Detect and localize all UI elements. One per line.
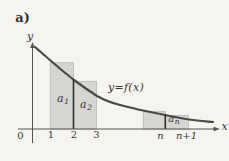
figure-part-label: a)	[15, 11, 30, 24]
y-axis-label: y	[27, 31, 33, 42]
a2-subscript: 2	[87, 103, 92, 112]
x-tick-3: 3	[93, 130, 99, 140]
x-axis-label: x	[221, 121, 227, 132]
x-tick-n-plus-1: n+1	[176, 131, 197, 141]
x-axis-arrow-icon	[214, 127, 221, 132]
an-subscript: n	[175, 117, 180, 126]
area-label-a1: a1	[57, 93, 69, 106]
x-tick-n: n	[157, 131, 163, 141]
curve-equation-label: y=f(x)	[108, 81, 144, 92]
a1-subscript: 1	[64, 97, 69, 106]
x-tick-2: 2	[71, 130, 77, 140]
area-label-an: an	[168, 114, 179, 126]
x-tick-1: 1	[48, 130, 54, 140]
a2-base: a	[80, 98, 87, 111]
a1-base: a	[57, 92, 64, 105]
y-axis-arrow-icon	[30, 42, 35, 48]
origin-label: 0	[17, 131, 23, 141]
figure-canvas: a) y x 0 1 2 3 n n+1 y=f(x) a1 a2 an	[0, 0, 229, 161]
area-label-a2: a2	[80, 99, 92, 112]
